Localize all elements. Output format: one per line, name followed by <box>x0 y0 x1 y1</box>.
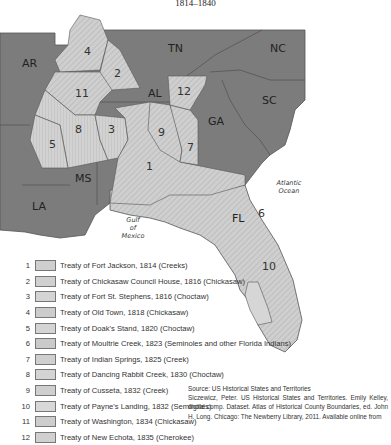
region-4 <box>55 15 108 72</box>
legend-item: 1Treaty of Fort Jackson, 1814 (Creeks) <box>8 258 291 274</box>
region-label-4: 4 <box>84 45 91 58</box>
label-GA: GA <box>208 115 225 128</box>
label-SC: SC <box>262 94 277 107</box>
region-label-5: 5 <box>49 138 56 151</box>
region-label-8: 8 <box>75 123 82 136</box>
label-gulf: Gulf <box>126 216 141 224</box>
legend-label: Treaty of Fort Jackson, 1814 (Creeks) <box>60 261 188 270</box>
source-title: Source: US Historical States and Territo… <box>188 384 388 393</box>
region-label-1: 1 <box>146 160 153 173</box>
legend-label: Treaty of Washington, 1834 (Chickasaw) <box>60 417 197 426</box>
swatch-vertical <box>35 369 56 380</box>
legend-num: 2 <box>8 277 35 286</box>
legend-num: 8 <box>8 370 35 379</box>
legend-label: Treaty of Indian Springs, 1825 (Creek) <box>60 355 189 364</box>
legend-num: 5 <box>8 324 35 333</box>
region-label-11: 11 <box>75 87 89 100</box>
legend-item: 7Treaty of Indian Springs, 1825 (Creek) <box>8 352 291 368</box>
region-label-2: 2 <box>114 67 121 80</box>
legend-num: 12 <box>8 433 35 442</box>
legend-item: 6Treaty of Moultrie Creek, 1823 (Seminol… <box>8 336 291 352</box>
region-label-9: 9 <box>158 126 165 139</box>
label-AR: AR <box>22 57 38 70</box>
legend-label: Treaty of Doak's Stand, 1820 (Choctaw) <box>60 324 195 333</box>
swatch-hatch <box>35 416 56 427</box>
label-ocean: Ocean <box>279 187 300 195</box>
map-years: 1814–1840 <box>0 0 391 8</box>
legend-label: Treaty of Fort St. Stephens, 1816 (Choct… <box>60 292 209 301</box>
label-gulf-of: of <box>130 224 138 232</box>
swatch-plain <box>35 401 56 412</box>
label-MS: MS <box>75 172 91 185</box>
legend-label: Treaty of Moultrie Creek, 1823 (Seminole… <box>60 339 291 348</box>
region-label-12: 12 <box>177 85 191 98</box>
label-LA: LA <box>32 200 46 213</box>
swatch-vertical <box>35 291 56 302</box>
swatch-hatch <box>35 354 56 365</box>
label-AL: AL <box>148 87 163 100</box>
label-gulf-mexico: Mexico <box>122 232 145 240</box>
legend-label: Treaty of Dancing Rabbit Creek, 1830 (Ch… <box>60 370 224 379</box>
legend-num: 3 <box>8 292 35 301</box>
swatch-vertical <box>35 323 56 334</box>
legend-num: 9 <box>8 386 35 395</box>
swatch-hatch <box>35 338 56 349</box>
region-label-3: 3 <box>108 123 115 136</box>
region-label-6: 6 <box>258 207 265 220</box>
legend-item: 8Treaty of Dancing Rabbit Creek, 1830 (C… <box>8 367 291 383</box>
legend-num: 4 <box>8 308 35 317</box>
legend-item: 4Treaty of Old Town, 1818 (Chickasaw) <box>8 305 291 321</box>
label-atlantic: Atlantic <box>276 179 302 187</box>
label-FL: FL <box>232 212 245 225</box>
legend-num: 7 <box>8 355 35 364</box>
legend-num: 6 <box>8 339 35 348</box>
source-citation: Source: US Historical States and Territo… <box>188 384 388 421</box>
swatch-hatch <box>35 385 56 396</box>
legend-item: 3Treaty of Fort St. Stephens, 1816 (Choc… <box>8 289 291 305</box>
swatch-hatch <box>35 276 56 287</box>
legend-item: 5Treaty of Doak's Stand, 1820 (Choctaw) <box>8 320 291 336</box>
label-NC: NC <box>270 42 286 55</box>
swatch-hatch <box>35 307 56 318</box>
legend-label: Treaty of New Echota, 1835 (Cherokee) <box>60 433 194 442</box>
legend-num: 11 <box>8 417 35 426</box>
region-label-7: 7 <box>187 141 194 154</box>
legend-item: 2Treaty of Chickasaw Council House, 1816… <box>8 274 291 290</box>
legend-label: Treaty of Chickasaw Council House, 1816 … <box>60 277 245 286</box>
swatch-hatch <box>35 260 56 271</box>
swatch-horizontal <box>35 432 56 443</box>
legend-item: 12Treaty of New Echota, 1835 (Cherokee) <box>8 430 291 445</box>
legend-num: 1 <box>8 261 35 270</box>
legend-label: Treaty of Old Town, 1818 (Chickasaw) <box>60 308 188 317</box>
legend-num: 10 <box>8 402 35 411</box>
source-text: Siczewicz, Peter. US Historical States a… <box>188 393 388 421</box>
legend-label: Treaty of Cusseta, 1832 (Creek) <box>60 386 168 395</box>
label-TN: TN <box>167 42 183 55</box>
